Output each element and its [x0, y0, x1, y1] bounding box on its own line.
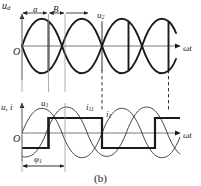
- phi1-dim-label: φ1: [34, 155, 42, 165]
- top-x-axis-label: ωt: [183, 44, 192, 53]
- curve-label-u1: u1: [41, 99, 48, 109]
- bottom-construction-lines: [22, 103, 65, 172]
- curve-label-u2: u2: [97, 11, 104, 21]
- top-dim-label-a: a: [33, 5, 38, 14]
- dashed-droplines: [102, 70, 169, 110]
- top-y-axis-label: ud: [2, 1, 10, 12]
- bottom-x-axis-label: ωt: [183, 131, 192, 140]
- top-dim-label-B: B: [53, 5, 59, 14]
- bottom-origin-label: O: [13, 134, 20, 144]
- top-origin-label: O: [13, 47, 20, 57]
- curve-label-i1: i1: [106, 110, 111, 120]
- curve-label-i11: i11: [86, 103, 94, 113]
- waveform-canvas: [0, 0, 201, 186]
- bottom-y-axis-label: u, i: [1, 103, 13, 112]
- figure-caption: (b): [0, 172, 201, 184]
- waveform-figure: ud O a B u2 ωt u, i O u1 i11 i1 φ1 ωt (b…: [0, 0, 201, 186]
